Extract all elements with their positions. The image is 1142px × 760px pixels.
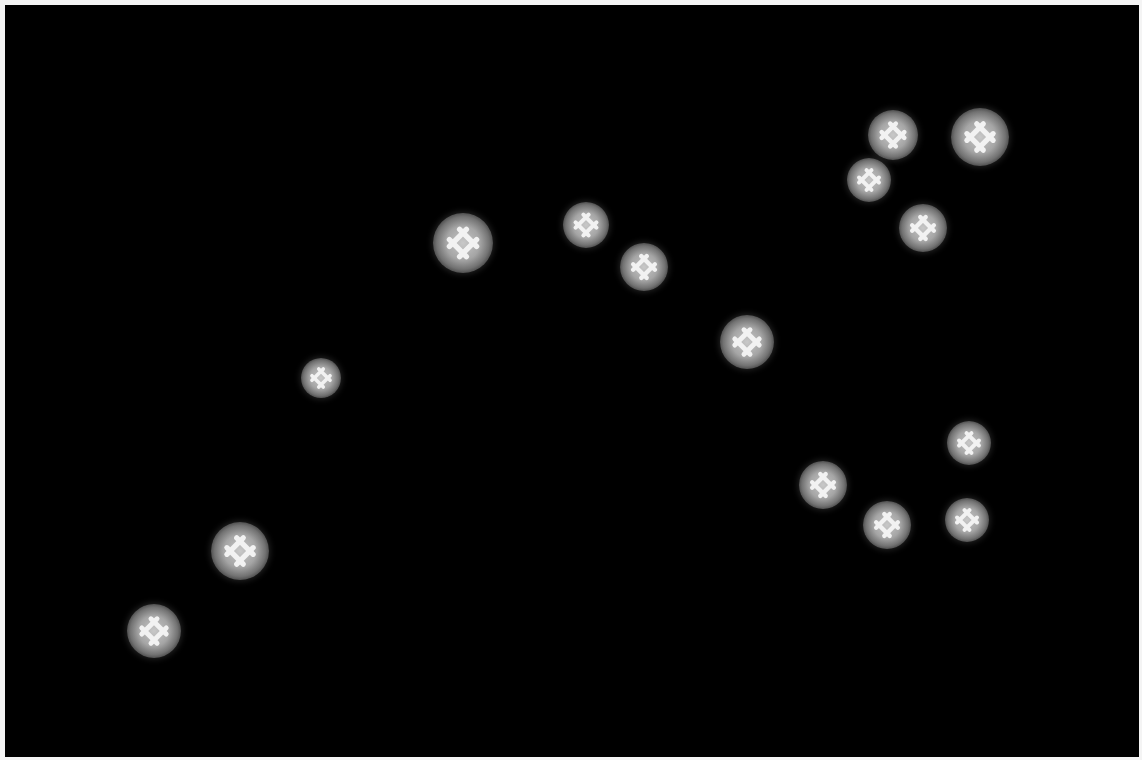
star-lattice-icon bbox=[127, 604, 181, 658]
star-lattice-icon bbox=[868, 110, 918, 160]
star-lattice-icon bbox=[620, 243, 668, 291]
star-lattice-icon bbox=[847, 158, 891, 202]
star-lattice-icon bbox=[945, 498, 989, 542]
star-lattice-icon bbox=[799, 461, 847, 509]
night-sky-canvas bbox=[5, 5, 1139, 757]
star-lattice-icon bbox=[863, 501, 911, 549]
star-lattice-icon bbox=[720, 315, 774, 369]
star-lattice-icon bbox=[951, 108, 1009, 166]
star-lattice-icon bbox=[301, 358, 341, 398]
star-lattice-icon bbox=[211, 522, 269, 580]
star-lattice-icon bbox=[563, 202, 609, 248]
star-lattice-icon bbox=[433, 213, 493, 273]
star-lattice-icon bbox=[899, 204, 947, 252]
star-lattice-icon bbox=[947, 421, 991, 465]
